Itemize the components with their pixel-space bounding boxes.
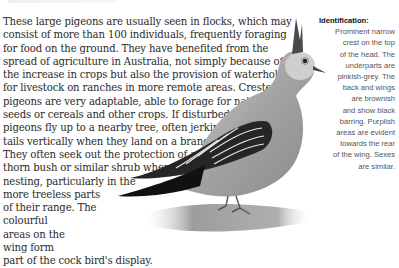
cropped-previous-text (8, 0, 118, 3)
identification-line: back and wings (303, 82, 395, 93)
identification-heading: Identification: (303, 15, 395, 26)
body-line: They often seek out the protection of a (3, 148, 292, 161)
identification-line: and show black (303, 105, 395, 116)
body-line: seeds or cereals and other crops. If dis… (3, 108, 292, 121)
body-line: for food on the ground. They have benefi… (3, 42, 292, 55)
body-line: of their range. The (3, 201, 292, 214)
body-line: for livestock on ranches in more remote … (3, 81, 292, 94)
identification-box: Identification: Prominent narrow crest o… (303, 15, 395, 172)
identification-line: areas are evident (303, 127, 395, 138)
body-line: nesting, particularly in the (3, 175, 292, 188)
identification-line: Prominent narrow (303, 26, 395, 37)
body-line: consist of more than 100 individuals, fr… (3, 28, 292, 41)
identification-line: are brownish (303, 93, 395, 104)
identification-line: towards the rear (303, 138, 395, 149)
body-line: areas on the (3, 228, 292, 241)
body-line: pigeons are very adaptable, able to fora… (3, 95, 292, 108)
bird-crest (292, 18, 303, 54)
article-body: These large pigeons are usually seen in … (3, 15, 292, 268)
body-line: wing form (3, 241, 292, 254)
body-line: spread of agriculture in Australia, not … (3, 55, 292, 68)
identification-line: crest on the top (303, 37, 395, 48)
body-line: the increase in crops but also the provi… (3, 68, 292, 81)
body-line: thorn bush or similar shrub when (3, 161, 292, 174)
identification-line: of the head. The (303, 49, 395, 60)
identification-line: underparts are (303, 60, 395, 71)
body-line: more treeless parts (3, 188, 292, 201)
body-line: pigeons fly up to a nearby tree, often j… (3, 121, 292, 134)
identification-line: pinkish-grey. The (303, 71, 395, 82)
body-line: These large pigeons are usually seen in … (3, 15, 292, 28)
body-line: part of the cock bird's display. (3, 254, 292, 267)
identification-line: are similar. (303, 161, 395, 172)
identification-line: barring. Purplish (303, 116, 395, 127)
body-line: colourful (3, 214, 292, 227)
identification-line: of the wing. Sexes (303, 149, 395, 160)
body-line: tails vertically when they land on a bra… (3, 135, 292, 148)
